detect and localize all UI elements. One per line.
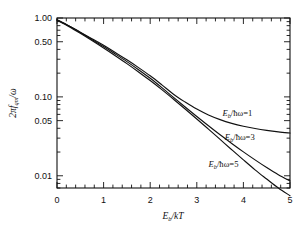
curve-1 [57,20,290,133]
y-tick-label-2: 0.50 [34,37,52,47]
semilog-line-chart: 1.00 0.50 0.10 0.05 0.01 0 1 2 3 4 5 Eb/… [0,0,304,228]
x-axis-title: Eb/kT [161,211,184,222]
x-tick-label-0: 0 [54,195,59,205]
y-axis-title: 2πfqm/ω [8,88,19,118]
y-tick-label-5: 0.01 [34,171,52,181]
curve-2 [57,20,290,181]
x-tick-label-1: 1 [101,195,106,205]
plot-frame [57,18,290,188]
y-tick-label-1: 1.00 [34,13,52,23]
curve-label-2: Eb/ħω=3 [224,132,255,143]
x-tick-label-4: 4 [241,195,246,205]
curve-3 [57,20,290,196]
y-axis-title-tail: /ω [8,88,18,99]
curve-label-1: Eb/ħω=1 [221,108,252,119]
curve-label-1-mid: /ħω [231,108,244,118]
curve-label-3: Eb/ħω=5 [208,159,239,170]
y-tick-label-4: 0.05 [34,116,52,126]
data-curves [57,20,290,196]
curve-label-1-eq: =1 [243,108,252,118]
x-tick-label-3: 3 [194,195,199,205]
x-tick-label-5: 5 [287,195,292,205]
curve-label-3-mid: /ħω [217,159,230,169]
curve-label-2-mid: /ħω [233,132,246,142]
figure-container: 1.00 0.50 0.10 0.05 0.01 0 1 2 3 4 5 Eb/… [0,0,304,228]
x-axis-title-tail: /kT [170,211,184,221]
curve-label-3-eq: =5 [229,159,238,169]
axis-ticks [57,18,290,188]
x-tick-label-2: 2 [148,195,153,205]
curve-label-2-eq: =3 [246,132,255,142]
y-tick-label-3: 0.10 [34,92,52,102]
